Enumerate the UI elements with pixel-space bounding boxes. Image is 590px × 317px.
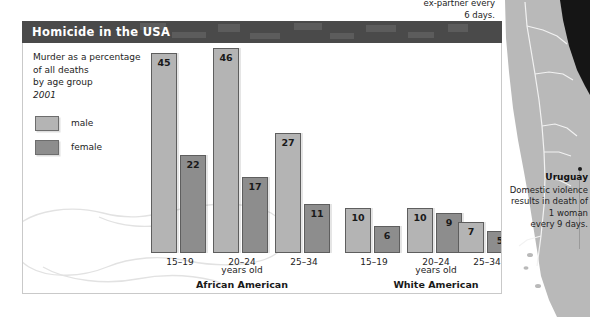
uruguay-line-1: Domestic violence [500,185,588,197]
bar-value-label: 27 [276,137,300,148]
map-svg [497,0,590,317]
bar-white-american-15-19-female: 6 [374,226,400,253]
bar-african-american-20-24-female: 17 [242,177,268,253]
bar-value-label: 45 [152,57,176,68]
bar-african-american-25-34-female: 11 [304,204,330,253]
bar-value-label: 22 [181,159,205,170]
uruguay-line-2: results in death of [500,196,588,208]
tick-label-25-34: 25–34 [274,257,334,268]
panel-title: Homicide in the USA [22,21,502,39]
panel-title-bar: Homicide in the USA [22,21,502,43]
uruguay-country-name: Uruguay [500,172,588,184]
bar-value-label: 11 [305,208,329,219]
bar-value-label: 5 [488,235,501,246]
bar-white-american-25-34-female: 5 [487,231,501,253]
uruguay-line-4: every 9 days. [500,219,588,231]
bar-white-american-25-34-male: 7 [458,222,484,253]
tick-label-15-19: 15–19 [150,257,210,268]
tick-label-15-19: 15–19 [344,257,404,268]
bar-value-label: 46 [214,52,238,63]
bar-african-american-15-19-female: 22 [180,155,206,253]
bar-african-american-25-34-male: 27 [275,133,301,253]
bar-value-label: 10 [346,212,370,223]
group-label-african-american: African American [182,279,302,290]
bar-value-label: 17 [243,181,267,192]
group-label-white-american: White American [376,279,496,290]
chart-panel-inner: Murder as a percentage of all deaths by … [23,21,501,293]
axis-note-2: years old [401,265,471,276]
bar-white-american-20-24-male: 10 [407,208,433,253]
top-annotation: ex-partner every 6 days. [330,0,495,21]
chart-panel: Murder as a percentage of all deaths by … [22,21,502,294]
bar-value-label: 6 [375,230,399,241]
axis-note-1: years old [207,265,277,276]
bar-african-american-15-19-male: 45 [151,53,177,253]
bar-african-american-20-24-male: 46 [213,48,239,253]
top-annotation-line-1: ex-partner every [330,0,495,10]
bar-white-american-15-19-male: 10 [345,208,371,253]
uruguay-callout: Uruguay Domestic violence results in dea… [500,172,588,231]
south-america-map [497,0,590,317]
bar-plot-area: 452215–19461720–24271125–3410615–1910920… [23,21,501,293]
bar-value-label: 7 [459,226,483,237]
bar-value-label: 10 [408,212,432,223]
top-annotation-line-2: 6 days. [330,10,495,22]
uruguay-line-3: 1 woman [500,208,588,220]
uruguay-location-dot-icon [578,167,582,171]
